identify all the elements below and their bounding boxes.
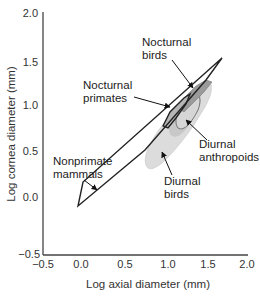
label-diurnal-anthropoids-line2: anthropoids <box>199 151 259 163</box>
y-tick-label: 1.5 <box>23 56 38 68</box>
arrow-nocturnal-birds <box>172 60 193 88</box>
annotations: Nocturnal birds Nocturnal primates Diurn… <box>53 36 259 200</box>
annotation-nocturnal-primates: Nocturnal primates <box>83 79 170 107</box>
x-tick-label: 1.5 <box>200 258 215 270</box>
label-nocturnal-birds-line1: Nocturnal <box>142 36 191 48</box>
label-diurnal-birds-line2: birds <box>164 188 189 200</box>
label-nocturnal-birds-line2: birds <box>142 49 167 61</box>
arrow-nocturnal-primates <box>134 97 170 107</box>
y-axis-title: Log cornea diameter (mm) <box>5 66 17 202</box>
annotation-nocturnal-birds: Nocturnal birds <box>142 36 193 88</box>
y-tick-label: 0.0 <box>23 191 38 203</box>
x-tick-label: 0.0 <box>73 258 88 270</box>
label-nonprimate-mammals-line1: Nonprimate <box>53 155 112 167</box>
label-diurnal-anthropoids-line1: Diurnal <box>199 138 235 150</box>
x-axis-title: Log axial diameter (mm) <box>86 278 210 290</box>
cornea-axial-diagram: 2.0 1.5 1.0 0.5 0.0 −0.5 −0.5 0.0 0.5 1.… <box>0 0 260 300</box>
annotation-diurnal-anthropoids: Diurnal anthropoids <box>186 120 259 163</box>
x-tick-label: 1.0 <box>160 258 175 270</box>
y-tick-label: 2.0 <box>23 7 38 19</box>
x-tick-labels: −0.5 0.0 0.5 1.0 1.5 2.0 <box>32 258 255 270</box>
y-tick-labels: 2.0 1.5 1.0 0.5 0.0 −0.5 <box>18 7 40 260</box>
label-nocturnal-primates-line1: Nocturnal <box>83 79 132 91</box>
y-tick-label: 0.5 <box>23 145 38 157</box>
label-nonprimate-mammals-line2: mammals <box>53 168 103 180</box>
x-tick-label: −0.5 <box>32 258 54 270</box>
label-diurnal-birds-line1: Diurnal <box>164 175 200 187</box>
y-tick-label: 1.0 <box>23 99 38 111</box>
x-tick-label: 0.5 <box>117 258 132 270</box>
label-nocturnal-primates-line2: primates <box>83 92 127 104</box>
arrow-nonprimate-mammals <box>84 180 97 190</box>
annotation-diurnal-birds: Diurnal birds <box>162 152 200 200</box>
x-tick-label: 2.0 <box>239 258 254 270</box>
